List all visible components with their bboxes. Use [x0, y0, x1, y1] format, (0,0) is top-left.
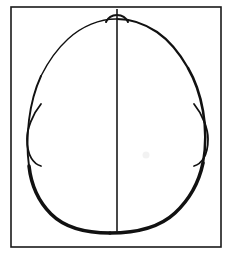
head-vertex-view-diagram: [0, 0, 231, 255]
scan-artifact-speck: [143, 152, 150, 159]
figure-container: Head outline, vertex (top-down) view Lin…: [0, 0, 231, 255]
page-background: [0, 0, 231, 255]
